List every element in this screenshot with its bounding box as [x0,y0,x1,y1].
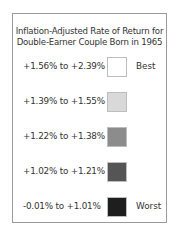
legend-title-line-1: Inflation-Adjusted Rate of Return for [13,26,166,37]
color-swatch [107,57,127,77]
range-label: +1.22% to +1.38% [23,131,105,142]
legend-row-worst: -0.01% to +1.01% Worst [13,197,166,217]
legend-title: Inflation-Adjusted Rate of Return for Do… [13,26,166,48]
worst-tag: Worst [136,201,161,212]
best-tag: Best [136,61,155,72]
range-label: +1.39% to +1.55% [23,96,105,107]
range-label: -0.01% to +1.01% [23,201,101,212]
color-swatch [107,127,127,147]
color-swatch [107,197,127,217]
legend-box: Inflation-Adjusted Rate of Return for Do… [12,13,167,223]
legend-row-2: +1.39% to +1.55% [13,92,166,112]
legend-row-best: +1.56% to +2.39% Best [13,57,166,77]
legend-title-line-2: Double-Earner Couple Born in 1965 [13,37,166,48]
legend-row-4: +1.02% to +1.21% [13,162,166,182]
color-swatch [107,92,127,112]
range-label: +1.02% to +1.21% [23,166,105,177]
legend-row-3: +1.22% to +1.38% [13,127,166,147]
range-label: +1.56% to +2.39% [23,61,105,72]
color-swatch [107,162,127,182]
